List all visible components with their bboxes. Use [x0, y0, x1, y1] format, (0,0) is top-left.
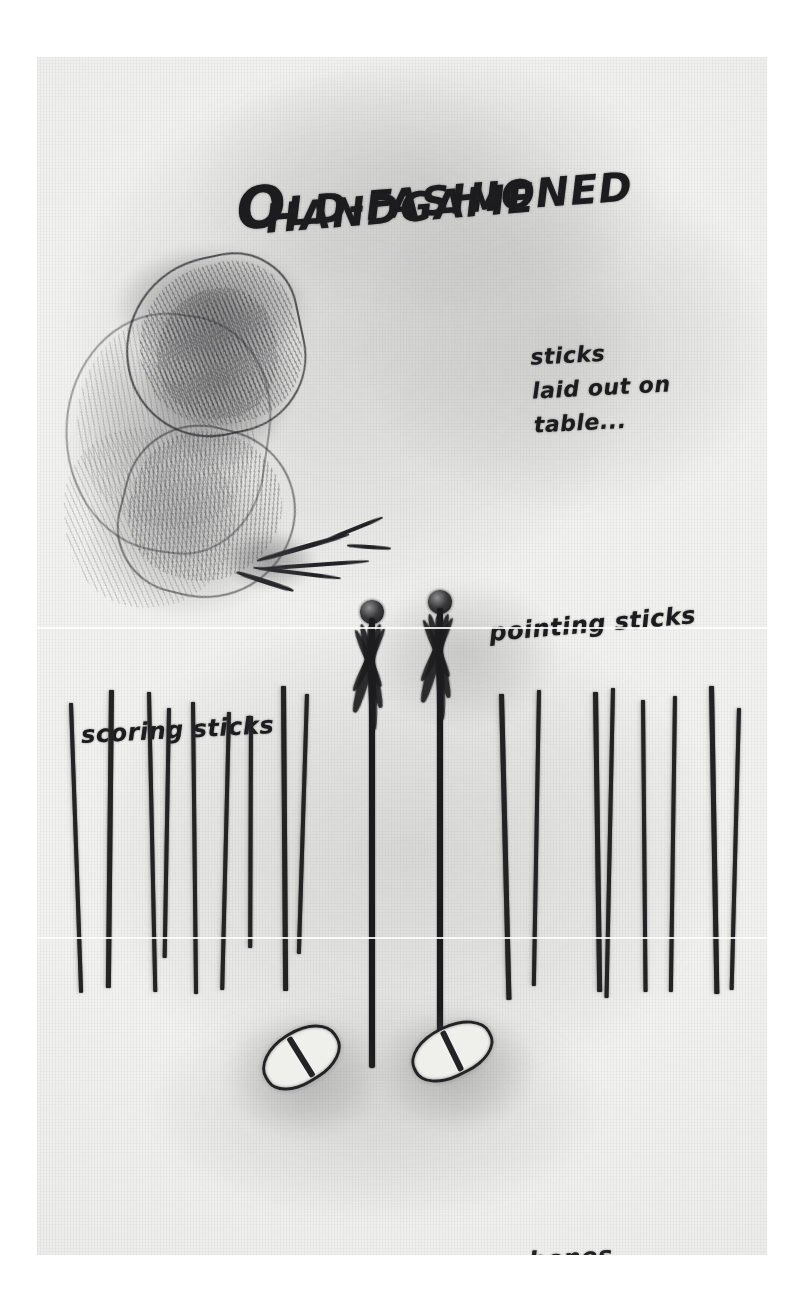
- drawing-canvas: OLD-FASHIONED HANDGAME sticks laid out o…: [0, 0, 808, 1300]
- paper-vignette: [37, 57, 767, 1255]
- paper-sheet: OLD-FASHIONED HANDGAME sticks laid out o…: [37, 57, 767, 1255]
